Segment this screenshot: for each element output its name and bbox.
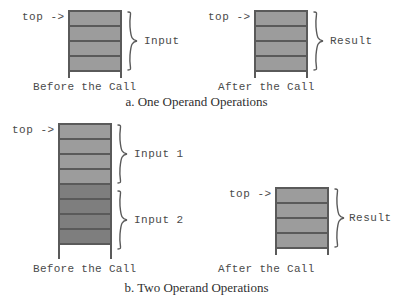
top-pointer-label-one-before: top ->: [22, 11, 65, 23]
stack-cells: [58, 123, 112, 245]
brace-input-1: [116, 124, 128, 184]
caption-before-call-two: Before the Call: [33, 263, 137, 275]
stack-two-operand-after: [275, 187, 329, 255]
stack-cell: [70, 42, 120, 57]
stack-cell: [70, 57, 120, 72]
stack-cell: [60, 155, 110, 170]
stack-cells: [254, 10, 308, 72]
stack-one-operand-after: [254, 10, 308, 78]
stack-cell: [256, 27, 306, 42]
brace-label-input-1: Input 1: [134, 148, 184, 160]
top-pointer-label-one-after: top ->: [208, 11, 251, 23]
stack-cell: [70, 27, 120, 42]
stack-cells: [68, 10, 122, 72]
top-pointer-label-two-after: top ->: [229, 188, 272, 200]
brace-label-result-two: Result: [349, 212, 392, 224]
stack-cell: [256, 57, 306, 72]
stack-cell: [256, 12, 306, 27]
brace-input: [126, 11, 138, 71]
caption-before-call-one: Before the Call: [33, 81, 137, 93]
stack-cells: [275, 187, 329, 249]
figure-caption-b: b. Two Operand Operations: [0, 280, 393, 296]
stack-two-operand-before: [58, 123, 112, 259]
stack-cell: [256, 42, 306, 57]
figure-caption-a: a. One Operand Operations: [0, 94, 393, 110]
brace-label-input-2: Input 2: [134, 214, 184, 226]
stack-one-operand-before: [68, 10, 122, 78]
stack-cell: [60, 140, 110, 155]
stack-cell: [70, 12, 120, 27]
brace-label-result-one: Result: [330, 35, 373, 47]
stack-cell: [277, 219, 327, 234]
caption-after-call-one: After the Call: [218, 81, 315, 93]
brace-input-2: [116, 190, 128, 250]
stack-cell: [60, 230, 110, 245]
stack-cell: [60, 125, 110, 140]
stack-operations-figure: top -> Input Before the Call top ->: [0, 0, 393, 307]
top-pointer-label-two-before: top ->: [12, 124, 55, 136]
stack-cell: [60, 200, 110, 215]
stack-cell: [60, 215, 110, 230]
brace-label-input: Input: [144, 35, 180, 47]
brace-result-two: [333, 188, 345, 248]
stack-cell: [60, 170, 110, 185]
stack-cell: [277, 204, 327, 219]
brace-result-one: [312, 11, 324, 71]
stack-cell: [277, 189, 327, 204]
caption-after-call-two: After the Call: [218, 263, 315, 275]
stack-cell: [277, 234, 327, 249]
stack-cell: [60, 185, 110, 200]
